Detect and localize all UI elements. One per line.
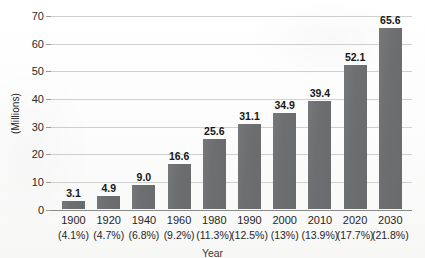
bar-2030 xyxy=(379,28,402,209)
bar-value-label-1990: 31.1 xyxy=(227,110,273,122)
bar-value-label-1960: 16.6 xyxy=(156,150,202,162)
bar-1900 xyxy=(62,201,85,210)
bar-value-label-1940: 9.0 xyxy=(121,171,167,183)
x-tick-percent-2030: (21.8%) xyxy=(367,229,413,241)
bar-1980 xyxy=(203,139,226,210)
bar-1920 xyxy=(97,196,120,210)
bar-value-label-1920: 4.9 xyxy=(86,182,132,194)
bar-value-label-2030: 65.6 xyxy=(367,14,413,26)
bar-value-label-2000: 34.9 xyxy=(262,99,308,111)
chart-figure: (Millions) 010203040506070 3.14.99.016.6… xyxy=(0,0,425,258)
bar-1990 xyxy=(238,124,261,210)
bar-2000 xyxy=(273,113,296,209)
bar-value-label-1980: 25.6 xyxy=(191,125,237,137)
bar-2010 xyxy=(308,101,331,210)
bar-1960 xyxy=(168,164,191,210)
bar-value-label-2010: 39.4 xyxy=(297,87,343,99)
bar-value-label-2020: 52.1 xyxy=(332,51,378,63)
x-tick-label-2030: 2030 xyxy=(367,214,413,226)
bar-1940 xyxy=(132,185,155,210)
x-axis-title: Year xyxy=(0,247,425,258)
bar-2020 xyxy=(344,65,367,209)
